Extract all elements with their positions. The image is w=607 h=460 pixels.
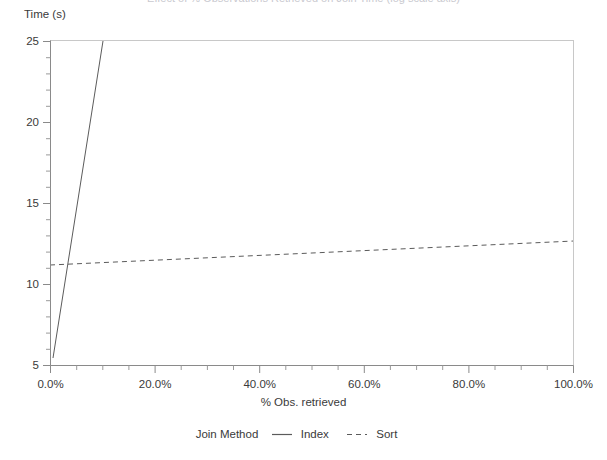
legend-key-index-icon — [271, 429, 293, 439]
y-tick-label: 25 — [26, 35, 39, 47]
x-tick-label: 0.0% — [37, 378, 63, 390]
y-tick-label: 5 — [33, 359, 39, 371]
legend-label-sort: Sort — [376, 428, 397, 440]
y-tick-label: 10 — [26, 278, 39, 290]
y-tick-label: 20 — [26, 116, 39, 128]
chart-legend: Join Method Index Sort — [0, 427, 607, 440]
line-chart-plot: 25 20 15 10 5 — [0, 0, 607, 400]
x-tick-label: 40.0% — [243, 378, 276, 390]
legend-title: Join Method — [196, 428, 259, 440]
x-tick-label: 100.0% — [554, 378, 593, 390]
plot-frame — [51, 41, 574, 366]
legend-label-index: Index — [301, 428, 329, 440]
x-tick-label: 20.0% — [139, 378, 172, 390]
y-axis: 25 20 15 10 5 — [26, 35, 50, 371]
y-tick-label: 15 — [26, 197, 39, 209]
x-axis: 0.0% 20.0% 40.0% 60.0% 80.0% 100.0% — [37, 366, 593, 391]
x-axis-title: % Obs. retrieved — [0, 396, 607, 408]
x-tick-label: 60.0% — [348, 378, 381, 390]
legend-key-sort-icon — [346, 429, 368, 439]
x-tick-label: 80.0% — [453, 378, 486, 390]
chart-page: Effect of % Observations Retrieved on Jo… — [0, 0, 607, 460]
